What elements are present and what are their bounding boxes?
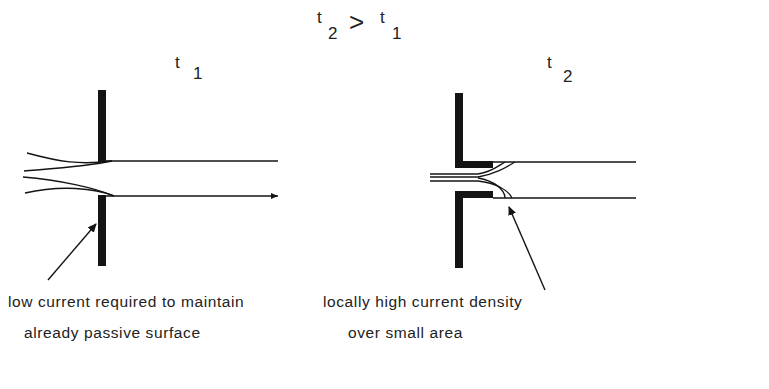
wall-upper [98,90,106,162]
wall-lower [98,195,106,266]
panel-t1-caption-line1: low current required to maintain [8,293,244,311]
figure: t 2 > t 1 t 1 t 2 [0,0,769,389]
panel-t1-caption-line2: already passive surface [24,324,201,342]
panel-t1-diagram [23,90,278,280]
panel-t2-diagram [430,93,636,290]
panel-t2-caption-line2: over small area [348,324,463,342]
panel-t2-caption-line1: locally high current density [323,293,522,311]
